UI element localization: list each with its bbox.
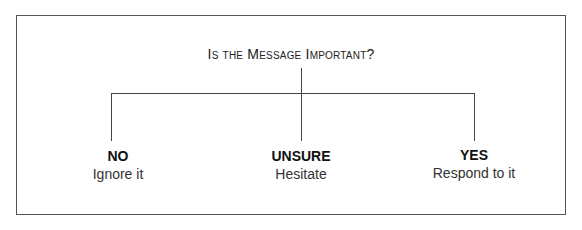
branch-label: YES xyxy=(394,147,554,163)
diagram-frame xyxy=(16,15,566,215)
branch-label: NO xyxy=(38,148,198,164)
stem-line xyxy=(301,68,302,141)
branch-action: Hesitate xyxy=(221,166,381,182)
crossbar-line xyxy=(111,93,475,94)
branch-action: Respond to it xyxy=(394,165,554,181)
branch-label: UNSURE xyxy=(221,148,381,164)
right-drop-line xyxy=(474,93,475,141)
question-title: Is the Message Important? xyxy=(0,46,582,62)
left-drop-line xyxy=(111,93,112,141)
branch-yes: YES Respond to it xyxy=(394,147,554,181)
branch-unsure: UNSURE Hesitate xyxy=(221,148,381,182)
branch-no: NO Ignore it xyxy=(38,148,198,182)
branch-action: Ignore it xyxy=(38,166,198,182)
